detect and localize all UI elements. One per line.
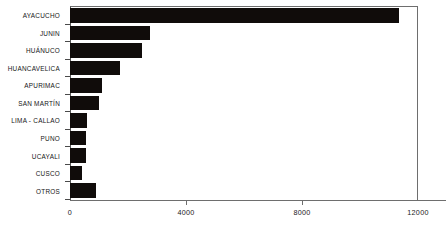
y-axis-tick	[65, 41, 70, 42]
category-label: HUÁNUCO	[0, 42, 64, 60]
bar[interactable]	[70, 183, 96, 198]
category-axis-labels: AYACUCHOJUNINHUÁNUCOHUANCAVELICAAPURIMAC…	[0, 7, 64, 200]
y-axis-tick	[65, 76, 70, 77]
bar-row	[70, 130, 418, 148]
bar[interactable]	[70, 8, 399, 23]
bar-row	[70, 60, 418, 78]
category-label: OTROS	[0, 182, 64, 200]
bar-row	[70, 165, 418, 183]
bar[interactable]	[70, 26, 150, 41]
y-axis-tick	[65, 24, 70, 25]
y-axis-tick	[65, 59, 70, 60]
category-label: PUNO	[0, 130, 64, 148]
bar-row	[70, 182, 418, 200]
category-label: JUNIN	[0, 25, 64, 43]
y-axis-tick	[65, 199, 70, 200]
bar[interactable]	[70, 61, 120, 76]
y-axis-tick	[65, 164, 70, 165]
bar[interactable]	[70, 43, 142, 58]
bar-row	[70, 95, 418, 113]
category-label: CUSCO	[0, 165, 64, 183]
bar[interactable]	[70, 131, 86, 146]
x-axis-tick	[186, 201, 187, 205]
y-axis-tick	[65, 181, 70, 182]
bar-row	[70, 7, 418, 25]
x-axis-tick-label: 0	[68, 208, 72, 217]
bar[interactable]	[70, 113, 87, 128]
bar-row	[70, 42, 418, 60]
category-label: HUANCAVELICA	[0, 60, 64, 78]
bar-chart: AYACUCHOJUNINHUÁNUCOHUANCAVELICAAPURIMAC…	[0, 0, 446, 241]
x-axis-tick	[302, 201, 303, 205]
bar-row	[70, 25, 418, 43]
bar-row	[70, 112, 418, 130]
bars-container	[70, 7, 418, 200]
y-axis-tick	[65, 129, 70, 130]
bar[interactable]	[70, 148, 86, 163]
category-label: UCAYALI	[0, 147, 64, 165]
bar[interactable]	[70, 78, 102, 93]
category-label: SAN MARTÍN	[0, 95, 64, 113]
y-axis-tick	[65, 146, 70, 147]
category-label: APURIMAC	[0, 77, 64, 95]
category-label: LIMA - CALLAO	[0, 112, 64, 130]
y-axis-tick	[65, 94, 70, 95]
bar[interactable]	[70, 96, 99, 111]
bar-row	[70, 77, 418, 95]
y-axis-tick	[65, 111, 70, 112]
bar[interactable]	[70, 166, 82, 181]
x-axis-tick-label: 12000	[407, 208, 429, 217]
x-axis-tick-label: 4000	[177, 208, 194, 217]
category-label: AYACUCHO	[0, 7, 64, 25]
bar-row	[70, 147, 418, 165]
x-axis-line	[70, 200, 446, 201]
x-axis-tick-label: 8000	[293, 208, 310, 217]
